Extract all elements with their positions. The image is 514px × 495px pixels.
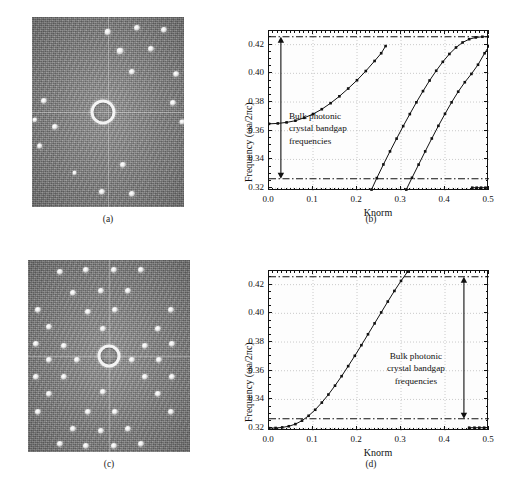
- x-tick-bottom: [453, 188, 454, 191]
- panel-caption-b: (b): [232, 214, 510, 224]
- x-tick-top: [409, 270, 410, 273]
- x-tick-top: [462, 270, 463, 273]
- y-tick-right: [486, 36, 489, 37]
- x-tick-bottom: [356, 186, 357, 190]
- x-tick-bottom: [422, 428, 423, 431]
- panel-caption-c: (c): [28, 459, 190, 469]
- lattice-spot: [85, 309, 91, 315]
- y-tick-left: [268, 327, 271, 328]
- y-tick-right: [486, 276, 489, 277]
- y-tick-left: [268, 276, 271, 277]
- x-tick-top: [475, 270, 476, 273]
- lattice-spot: [83, 267, 89, 273]
- x-tick-top: [479, 270, 480, 273]
- x-tick-top: [334, 30, 335, 33]
- x-tick-top: [308, 30, 309, 33]
- band-data-marker: [301, 419, 304, 422]
- band-data-marker: [411, 176, 414, 179]
- x-tick-top: [294, 270, 295, 273]
- band-data-marker: [373, 322, 376, 325]
- x-tick-top: [303, 270, 304, 273]
- x-tick-bottom: [330, 428, 331, 431]
- band-data-marker: [347, 365, 350, 368]
- y-tick-right: [486, 65, 489, 66]
- y-tick-left: [268, 305, 271, 306]
- y-tick-left: [268, 312, 272, 313]
- x-tick-top: [272, 270, 273, 273]
- lattice-spot: [37, 143, 43, 149]
- band-data-marker: [415, 101, 418, 104]
- lattice-spot: [134, 25, 140, 31]
- y-tick-right: [486, 51, 489, 52]
- bandgap-arrow: [278, 37, 284, 179]
- x-tick-bottom: [400, 186, 401, 190]
- y-tick-right: [484, 341, 488, 342]
- panel-b-chart: 0.00.10.20.30.40.50.320.340.360.380.400.…: [232, 22, 510, 214]
- x-tick-bottom: [457, 428, 458, 431]
- y-tick-left: [268, 158, 272, 159]
- lattice-spot: [148, 46, 154, 52]
- x-tick-bottom: [470, 188, 471, 191]
- x-tick-top: [488, 270, 489, 274]
- lattice-spot: [70, 290, 76, 296]
- lattice-spot: [46, 324, 52, 330]
- x-tick-top: [457, 30, 458, 33]
- lattice-spot: [100, 389, 106, 395]
- y-tick-label: 0.42: [236, 279, 264, 289]
- band-data-marker: [470, 73, 473, 76]
- band-data-marker: [329, 102, 332, 105]
- x-tick-label: 0.0: [262, 194, 273, 204]
- x-tick-bottom: [343, 188, 344, 191]
- lattice-spot: [57, 269, 63, 275]
- band-data-marker: [395, 137, 398, 140]
- band-data-marker: [477, 63, 480, 66]
- x-tick-top: [281, 270, 282, 273]
- x-tick-bottom: [466, 428, 467, 431]
- x-tick-bottom: [334, 188, 335, 191]
- x-tick-label: 0.4: [438, 434, 449, 444]
- y-tick-right: [484, 370, 488, 371]
- y-tick-left: [268, 101, 272, 102]
- y-tick-left: [268, 58, 271, 59]
- x-tick-top: [484, 30, 485, 33]
- x-tick-bottom: [400, 426, 401, 430]
- x-tick-label: 0.1: [306, 434, 317, 444]
- band-data-marker: [354, 355, 357, 358]
- y-tick-right: [486, 87, 489, 88]
- y-tick-right: [486, 391, 489, 392]
- x-tick-top: [360, 30, 361, 33]
- x-tick-top: [404, 270, 405, 273]
- y-tick-right: [484, 284, 488, 285]
- lattice-spot: [138, 441, 144, 447]
- x-tick-bottom: [325, 428, 326, 431]
- lattice-spot: [41, 98, 47, 104]
- x-tick-top: [448, 30, 449, 33]
- lattice-spot: [129, 69, 135, 75]
- y-tick-right: [484, 312, 488, 313]
- lattice-spot: [100, 326, 106, 332]
- lattice-spot: [111, 443, 117, 449]
- panel-caption-a: (a): [32, 214, 184, 224]
- lattice-spot: [61, 343, 67, 349]
- lattice-spot: [169, 341, 175, 347]
- lattice-spot: [180, 119, 184, 124]
- x-tick-bottom: [413, 188, 414, 191]
- y-tick-right: [486, 291, 489, 292]
- lattice-spot: [112, 409, 118, 415]
- y-tick-left: [268, 341, 272, 342]
- lattice-spot: [33, 374, 39, 380]
- band-data-marker: [314, 408, 317, 411]
- x-tick-top: [294, 30, 295, 33]
- y-tick-right: [486, 166, 489, 167]
- x-tick-top: [352, 30, 353, 33]
- x-tick-bottom: [479, 428, 480, 431]
- x-tick-bottom: [387, 428, 388, 431]
- x-tick-bottom: [431, 188, 432, 191]
- y-tick-label: 0.40: [236, 67, 264, 77]
- x-tick-top: [281, 30, 282, 33]
- x-tick-bottom: [413, 428, 414, 431]
- y-tick-left: [268, 320, 271, 321]
- x-tick-top: [378, 30, 379, 33]
- x-tick-bottom: [440, 188, 441, 191]
- x-tick-top: [268, 30, 269, 34]
